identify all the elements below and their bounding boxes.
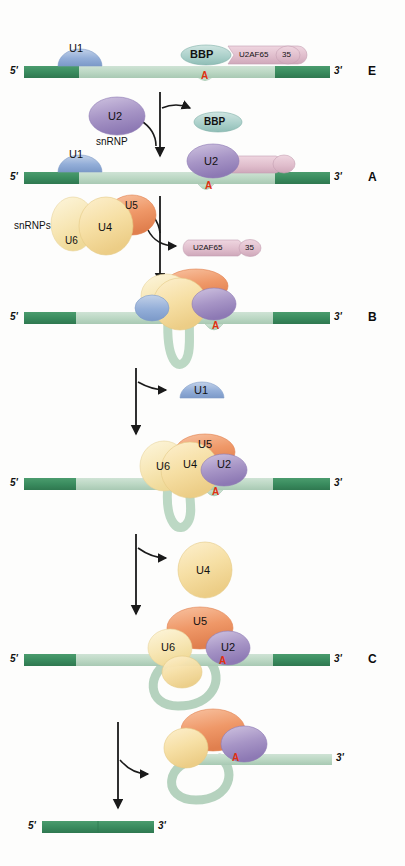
u2-particle-b	[192, 288, 236, 320]
u2af35-released-label: 35	[245, 243, 254, 252]
exon-2-a	[275, 172, 330, 184]
u6-lower-lobe-c	[162, 656, 202, 688]
u1-particle-b	[135, 295, 169, 321]
intron-a	[79, 172, 275, 184]
u5-label-c: U5	[193, 615, 207, 627]
three-prime-label-bact: 3'	[334, 477, 342, 488]
stage-complex-b	[24, 269, 330, 364]
exon-2-bact	[273, 478, 330, 490]
three-prime-label-rel: 3'	[336, 752, 344, 763]
branch-point-label-c: A	[219, 655, 226, 666]
u6-incoming-label: U6	[65, 235, 78, 246]
branch-point-label-a: A	[205, 180, 212, 191]
stage-letter-b: B	[368, 310, 377, 324]
u5-label-bact: U5	[198, 438, 212, 450]
arrow-bbp-release	[162, 105, 190, 108]
five-prime-label-bact: 5'	[10, 477, 18, 488]
u2-label-bact: U2	[217, 458, 231, 470]
stage-complex-b-act	[24, 434, 330, 528]
exon-1-b	[24, 312, 76, 324]
stage-letter-a: A	[368, 170, 377, 184]
branch-point-label-b: A	[212, 320, 219, 331]
bbp-released-label: BBP	[204, 116, 225, 127]
u1-released-label: U1	[194, 384, 208, 396]
three-prime-label-b: 3'	[334, 311, 342, 322]
u6-particle-rel	[164, 728, 208, 768]
five-prime-label-c: 5'	[10, 653, 18, 664]
stage-letter-c: C	[368, 652, 377, 666]
intron-e	[79, 66, 275, 78]
five-prime-label-e: 5'	[10, 65, 18, 76]
arrow-u4-release	[138, 548, 166, 558]
arrow-u1-release	[138, 382, 166, 390]
stage-lariat-release	[164, 709, 332, 800]
u2-particle-rel	[221, 726, 267, 762]
exon-1-c	[24, 654, 76, 666]
three-prime-label-a: 3'	[334, 171, 342, 182]
exon-1-a	[24, 172, 79, 184]
u1-label-e: U1	[69, 42, 83, 54]
exon-2-c	[273, 654, 330, 666]
three-prime-label-c: 3'	[334, 653, 342, 664]
u6-label-bact: U6	[156, 460, 170, 472]
exon-1-bact	[24, 478, 76, 490]
branch-point-label-bact: A	[212, 486, 219, 497]
stage-letter-e: E	[368, 64, 376, 78]
snrnps-label: snRNPs	[14, 220, 51, 231]
u2-snrnp-sublabel: snRNP	[96, 136, 128, 147]
stage-complex-c	[24, 607, 330, 706]
exon-1-e	[24, 66, 79, 78]
u2af35-label-e: 35	[282, 50, 291, 59]
three-prime-label-final: 3'	[158, 820, 166, 831]
arrow-u2af-release	[148, 230, 176, 246]
branch-point-label-rel: A	[232, 752, 239, 763]
stage-spliced-mrna	[42, 821, 154, 833]
exon-2-b	[273, 312, 330, 324]
u4-released-label: U4	[196, 564, 210, 576]
exon-2-e	[275, 66, 330, 78]
u6-label-c: U6	[161, 641, 175, 653]
u2af65-released-label: U2AF65	[193, 243, 222, 252]
intron-tail-rel	[196, 754, 332, 765]
five-prime-label-b: 5'	[10, 311, 18, 322]
arrow-lariat-release	[120, 760, 148, 774]
u1-label-a: U1	[69, 148, 83, 160]
spliceosome-diagram: 5' 3' U1 BBP U2AF65 35 A E U2 snRNP BBP …	[0, 0, 405, 866]
u2-label-c: U2	[221, 641, 235, 653]
u2af35-tube-a	[273, 155, 295, 173]
u2-label-a: U2	[204, 155, 218, 167]
bbp-label-e: BBP	[190, 48, 213, 60]
u2af65-label-e: U2AF65	[239, 50, 268, 59]
five-prime-label-a: 5'	[10, 171, 18, 182]
branch-point-label-e: A	[201, 70, 208, 81]
diagram-canvas	[0, 0, 405, 866]
u4-label-bact: U4	[183, 458, 197, 470]
u2-incoming-label: U2	[108, 110, 122, 122]
u4-incoming-label: U4	[98, 221, 112, 233]
u5-incoming-label: U5	[125, 200, 138, 211]
five-prime-label-final: 5'	[28, 820, 36, 831]
three-prime-label-e: 3'	[334, 65, 342, 76]
